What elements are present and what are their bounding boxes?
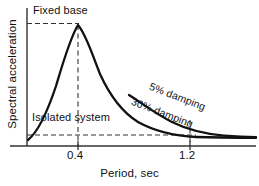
x-tick-label-1.2: 1.2	[179, 149, 195, 161]
annotation-fixed-base: Fixed base	[33, 4, 88, 16]
x-tick-label-0.4: 0.4	[67, 149, 83, 161]
chart-plot-area	[0, 0, 259, 186]
y-axis-label: Spectral acceleration	[6, 14, 18, 134]
spectral-acceleration-chart: Spectral acceleration Period, sec 0.4 1.…	[0, 0, 259, 186]
annotation-isolated-system: Isolated system	[32, 111, 110, 123]
x-axis-label: Period, sec	[0, 167, 259, 179]
